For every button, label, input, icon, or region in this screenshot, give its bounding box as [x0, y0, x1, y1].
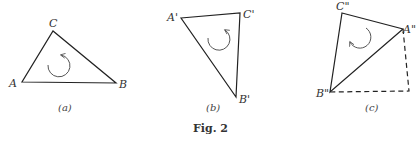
panel-c: C" A" B" (c): [315, 0, 416, 113]
panel-caption-b: (b): [206, 102, 220, 113]
counterclockwise-arrow-icon: [48, 55, 70, 77]
triangle-abc: [22, 31, 116, 83]
vertex-label-a-prime: A': [166, 11, 178, 24]
clockwise-arrow-icon: [208, 30, 230, 50]
vertex-label-b-double-prime: B": [315, 87, 329, 100]
counterclockwise-arrow-icon: [350, 28, 371, 48]
triangle-abc-prime: [181, 13, 240, 97]
vertex-label-c-prime: C': [243, 8, 254, 21]
panel-caption-a: (a): [58, 102, 72, 113]
panel-caption-c: (c): [365, 102, 379, 113]
vertex-label-a-double-prime: A": [402, 23, 416, 36]
vertex-label-c: C: [49, 17, 58, 30]
figure-2-diagram: A B C (a) A' C' B' (b) C" A" B" (c) Fig.…: [0, 0, 420, 141]
panel-b: A' C' B' (b): [166, 8, 254, 113]
vertex-label-c-double-prime: C": [336, 0, 349, 13]
vertex-label-b-prime: B': [238, 93, 250, 106]
vertex-label-a: A: [8, 77, 17, 90]
figure-caption: Fig. 2: [193, 122, 228, 135]
panel-a: A B C (a): [8, 17, 127, 113]
vertex-label-b: B: [118, 78, 127, 91]
triangle-abc-double-prime: [330, 13, 403, 92]
